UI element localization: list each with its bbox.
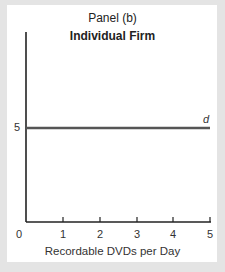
x-axis-label: Recordable DVDs per Day [0, 245, 225, 257]
x-tick-5: 5 [207, 228, 213, 240]
y-tick-5: 5 [14, 121, 20, 133]
x-tick-0: 0 [16, 228, 22, 240]
chart-plot [0, 0, 225, 272]
x-tick-2: 2 [97, 228, 103, 240]
x-tick-3: 3 [134, 228, 140, 240]
x-tick-1: 1 [60, 228, 66, 240]
x-tick-4: 4 [170, 228, 176, 240]
line-label-d: d [203, 113, 209, 125]
